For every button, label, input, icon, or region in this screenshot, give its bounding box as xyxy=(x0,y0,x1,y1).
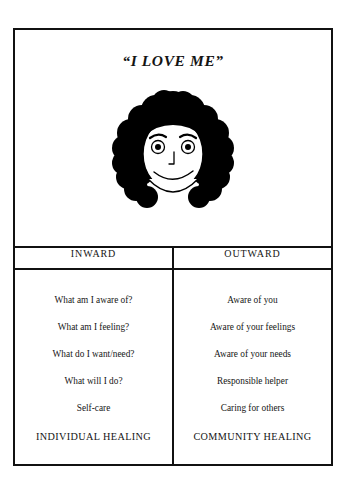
column-inward-header: INWARD xyxy=(15,248,173,268)
illustration-panel: “I LOVE ME” xyxy=(15,30,331,246)
list-item: Responsible helper xyxy=(217,368,288,395)
inward-outward-table: INWARD OUTWARD What am I aware of? What … xyxy=(15,246,331,464)
table-header-row: INWARD OUTWARD xyxy=(15,248,331,270)
list-item: What will I do? xyxy=(64,368,122,395)
column-outward-header: OUTWARD xyxy=(173,248,331,268)
list-item: Self-care xyxy=(77,395,111,422)
inward-entries-list: What am I aware of? What am I feeling? W… xyxy=(15,270,172,452)
outward-entries-list: Aware of you Aware of your feelings Awar… xyxy=(174,270,331,452)
inward-summary-label: INDIVIDUAL HEALING xyxy=(36,431,151,442)
page-title: “I LOVE ME” xyxy=(15,52,331,70)
list-item: Caring for others xyxy=(221,395,285,422)
poster-card: “I LOVE ME” xyxy=(13,28,333,466)
list-item: What do I want/need? xyxy=(53,341,135,368)
column-header-inward: INWARD xyxy=(15,248,172,259)
list-item: What am I feeling? xyxy=(58,314,130,341)
column-outward: Aware of you Aware of your feelings Awar… xyxy=(173,270,331,464)
table-body-row: What am I aware of? What am I feeling? W… xyxy=(15,270,331,464)
column-inward: What am I aware of? What am I feeling? W… xyxy=(15,270,173,464)
list-item: Aware of you xyxy=(227,287,277,314)
list-item: Aware of your feelings xyxy=(210,314,295,341)
column-header-outward: OUTWARD xyxy=(174,248,331,259)
list-item: What am I aware of? xyxy=(55,287,133,314)
smiling-face-with-curly-hair-illustration xyxy=(98,86,248,240)
list-item: Aware of your needs xyxy=(214,341,291,368)
outward-summary-label: COMMUNITY HEALING xyxy=(193,431,311,442)
